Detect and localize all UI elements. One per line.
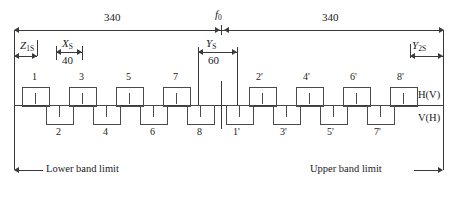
channel-label-1p: 1' — [233, 127, 240, 137]
channel-label-7p: 7' — [374, 127, 381, 137]
dimension-xs-label: XS — [62, 38, 73, 49]
dimension-z1s-label: Z1S — [20, 40, 34, 51]
xs-extension-right — [82, 46, 83, 60]
y2s-left-arrowhead — [410, 53, 415, 59]
channel-center-tick-lower-3p — [286, 106, 287, 117]
channel-center-tick-upper-8p — [403, 93, 404, 104]
lower-band-limit-label: Lower band limit — [46, 164, 119, 175]
top-dim-center-arrow-right — [224, 27, 229, 33]
upper-band-limit-line — [443, 30, 444, 170]
center-frequency-tick — [221, 25, 222, 35]
channel-block-upper-1 — [22, 87, 50, 107]
channel-label-4: 4 — [103, 127, 108, 137]
top-dim-center-arrow-left — [215, 27, 220, 33]
dimension-340-right: 340 — [322, 12, 339, 23]
channel-center-tick-lower-6 — [153, 106, 154, 117]
channel-block-lower-1p — [226, 105, 254, 125]
lower-band-limit-leader — [15, 170, 43, 171]
channel-label-5: 5 — [126, 72, 131, 82]
channel-label-1: 1 — [32, 72, 37, 82]
channel-center-tick-lower-5p — [333, 106, 334, 117]
dimension-ys-label: YS — [206, 38, 216, 49]
channel-block-upper-8p — [390, 87, 418, 107]
channel-block-upper-4p — [296, 87, 324, 107]
lower-band-limit-arrowhead — [14, 167, 19, 173]
channel-block-lower-6 — [140, 105, 168, 125]
xs-subscript: S — [69, 42, 73, 51]
dimension-ys-value: 60 — [208, 55, 219, 66]
channel-center-tick-upper-1 — [35, 93, 36, 104]
channel-center-tick-upper-6p — [356, 93, 357, 104]
center-frequency-subscript: 0 — [218, 13, 222, 22]
channel-center-tick-upper-4p — [309, 93, 310, 104]
dimension-340-left: 340 — [104, 12, 121, 23]
dimension-y2s-label: Y2S — [412, 40, 426, 51]
channel-block-lower-3p — [273, 105, 301, 125]
channel-label-8p: 8' — [397, 72, 404, 82]
channel-center-tick-upper-7 — [176, 93, 177, 104]
channel-label-7: 7 — [173, 72, 178, 82]
ys-extension-right — [237, 47, 238, 105]
z1s-extension-line — [37, 40, 38, 56]
upper-band-limit-arrowhead — [438, 167, 443, 173]
center-frequency-label: f0 — [215, 9, 222, 20]
channel-block-upper-5 — [116, 87, 144, 107]
channel-center-tick-lower-8 — [200, 106, 201, 117]
channel-label-3p: 3' — [280, 127, 287, 137]
channel-center-tick-lower-4 — [106, 106, 107, 117]
channel-block-lower-8 — [187, 105, 215, 125]
xs-right-arrowhead — [77, 49, 82, 55]
z1s-left-arrowhead — [14, 53, 19, 59]
channel-block-upper-6p — [343, 87, 371, 107]
channel-block-lower-2 — [46, 105, 74, 125]
channel-label-2p: 2' — [256, 72, 263, 82]
center-frequency-axis-line — [221, 81, 222, 129]
lower-band-limit-line — [14, 30, 15, 170]
ys-right-arrowhead — [232, 49, 237, 55]
channel-center-tick-lower-2 — [59, 106, 60, 117]
xs-left-arrowhead — [56, 49, 61, 55]
channel-block-lower-5p — [320, 105, 348, 125]
channel-block-lower-4 — [93, 105, 121, 125]
channel-block-lower-7p — [367, 105, 395, 125]
polarisation-label-upper: H(V) — [418, 90, 440, 101]
channel-label-5p: 5' — [327, 127, 334, 137]
ys-left-arrowhead — [198, 49, 203, 55]
z1s-subscript: 1S — [26, 44, 34, 53]
diagram-canvas: 340 340 f0 Z1S XS 40 YS 60 Y2S 1 3 5 7 — [0, 0, 458, 197]
ys-extension-left — [198, 47, 199, 105]
channel-center-tick-lower-7p — [380, 106, 381, 117]
channel-label-8: 8 — [197, 127, 202, 137]
channel-block-upper-3 — [69, 87, 97, 107]
channel-label-3: 3 — [79, 72, 84, 82]
dimension-xs-value: 40 — [62, 55, 73, 66]
ys-subscript: S — [212, 42, 216, 51]
channel-center-tick-upper-2p — [262, 93, 263, 104]
y2s-subscript: 2S — [418, 44, 426, 53]
upper-band-limit-label: Upper band limit — [310, 164, 382, 175]
channel-label-6p: 6' — [350, 72, 357, 82]
top-dimension-line — [14, 30, 444, 31]
channel-center-tick-upper-5 — [129, 93, 130, 104]
channel-label-2: 2 — [56, 127, 61, 137]
channel-block-upper-2p — [249, 87, 277, 107]
channel-label-4p: 4' — [303, 72, 310, 82]
polarisation-label-lower: V(H) — [418, 113, 440, 124]
z1s-right-arrowhead — [32, 53, 37, 59]
channel-center-tick-lower-1p — [239, 106, 240, 117]
channel-block-upper-7 — [163, 87, 191, 107]
channel-center-tick-upper-3 — [82, 93, 83, 104]
channel-label-6: 6 — [150, 127, 155, 137]
xs-symbol: X — [62, 37, 69, 49]
y2s-right-arrowhead — [438, 53, 443, 59]
